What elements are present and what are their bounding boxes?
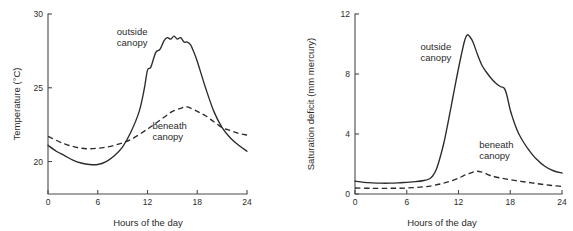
series-line-beneath-canopy <box>48 107 247 149</box>
y-tick-marks <box>355 14 359 194</box>
x-tick-label: 0 <box>353 197 358 207</box>
axis-lines <box>48 14 247 194</box>
series-line-outside-canopy <box>48 36 247 165</box>
x-tick-marks <box>48 190 247 194</box>
y-tick-marks <box>48 14 52 162</box>
y-axis-title: Temperature (°C) <box>11 68 22 141</box>
axis-lines <box>355 14 562 194</box>
series-line-outside-canopy <box>355 35 562 183</box>
y-tick-labels: 202530 <box>34 9 44 167</box>
y-tick-label: 12 <box>341 9 351 19</box>
annotation-line: canopy <box>152 131 183 142</box>
x-axis-title: Hours of the day <box>407 217 477 228</box>
x-tick-labels: 06121824 <box>353 197 567 207</box>
series-annotation-beneath-canopy: beneathcanopy <box>152 120 186 142</box>
y-tick-label: 25 <box>34 83 44 93</box>
x-tick-label: 24 <box>242 197 252 207</box>
chart-panel-saturation-deficit: 06121824 04812 outsidecanopybeneathcanop… <box>290 0 573 231</box>
series-annotation-outside-canopy: outsidecanopy <box>117 26 148 48</box>
x-tick-label: 12 <box>143 197 153 207</box>
x-tick-label: 6 <box>404 197 409 207</box>
series-annotations: outsidecanopybeneathcanopy <box>117 26 187 142</box>
annotation-line: outside <box>117 26 148 37</box>
series-line-beneath-canopy <box>355 171 562 188</box>
chart-panel-temperature: 06121824 202530 outsidecanopybeneathcano… <box>0 0 290 231</box>
annotation-line: canopy <box>479 150 510 161</box>
saturation-axes <box>355 14 562 194</box>
annotation-line: canopy <box>117 37 148 48</box>
figure-container: 06121824 202530 outsidecanopybeneathcano… <box>0 0 573 231</box>
x-tick-label: 0 <box>46 197 51 207</box>
x-tick-label: 24 <box>557 197 567 207</box>
series-annotation-outside-canopy: outsidecanopy <box>421 41 452 63</box>
y-tick-label: 0 <box>345 189 350 199</box>
y-tick-label: 8 <box>345 69 350 79</box>
x-tick-label: 18 <box>506 197 516 207</box>
y-tick-label: 30 <box>34 9 44 19</box>
annotation-line: canopy <box>421 52 452 63</box>
y-tick-labels: 04812 <box>341 9 351 199</box>
annotation-line: beneath <box>152 120 186 131</box>
y-tick-label: 20 <box>34 157 44 167</box>
temperature-chart-svg: 06121824 202530 outsidecanopybeneathcano… <box>0 0 290 231</box>
y-axis-title: Saturation deficit (mm mercury) <box>305 38 316 171</box>
annotation-line: outside <box>421 41 452 52</box>
x-tick-labels: 06121824 <box>46 197 252 207</box>
x-tick-label: 18 <box>193 197 203 207</box>
saturation-deficit-chart-svg: 06121824 04812 outsidecanopybeneathcanop… <box>290 0 573 231</box>
y-tick-label: 4 <box>345 129 350 139</box>
series-annotation-beneath-canopy: beneathcanopy <box>479 139 513 161</box>
annotation-line: beneath <box>479 139 513 150</box>
x-axis-title: Hours of the day <box>113 217 183 228</box>
x-tick-marks <box>355 190 562 194</box>
series-annotations: outsidecanopybeneathcanopy <box>421 41 514 161</box>
temperature-axes <box>48 14 247 194</box>
saturation-series <box>355 35 562 189</box>
x-tick-label: 6 <box>95 197 100 207</box>
temperature-series <box>48 36 247 165</box>
x-tick-label: 12 <box>454 197 464 207</box>
